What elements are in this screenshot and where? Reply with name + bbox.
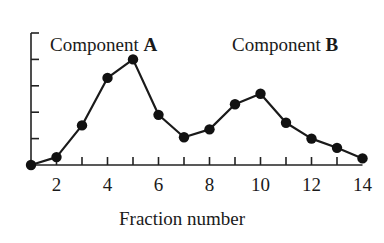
data-point-marker — [332, 143, 342, 153]
data-point-marker — [281, 118, 291, 128]
annotation-a-text: Component — [50, 34, 143, 55]
data-point-marker — [204, 124, 214, 134]
data-point-marker — [77, 120, 87, 130]
data-markers — [26, 54, 368, 170]
x-tick-label: 6 — [154, 174, 164, 195]
annotation-b-letter: B — [325, 34, 338, 55]
annotation-component-a: Component A — [50, 35, 157, 54]
annotation-b-text: Component — [232, 34, 325, 55]
x-tick-label: 8 — [205, 174, 215, 195]
data-point-marker — [102, 73, 112, 83]
data-point-marker — [306, 133, 316, 143]
x-tick-label: 10 — [251, 174, 270, 195]
data-point-marker — [128, 54, 138, 64]
series-line — [31, 59, 363, 165]
data-point-marker — [179, 132, 189, 142]
x-tick-label: 14 — [353, 174, 373, 195]
data-point-marker — [357, 153, 367, 163]
data-point-marker — [26, 160, 36, 170]
annotation-component-b: Component B — [232, 35, 338, 54]
data-point-marker — [51, 152, 61, 162]
x-tick-label: 2 — [52, 174, 62, 195]
x-tick-labels: 2468101214 — [52, 174, 373, 195]
data-point-marker — [255, 89, 265, 99]
x-axis-label: Fraction number — [119, 209, 245, 228]
annotation-a-letter: A — [143, 34, 157, 55]
data-point-marker — [153, 110, 163, 120]
data-line — [31, 59, 363, 165]
data-point-marker — [230, 99, 240, 109]
x-tick-label: 12 — [302, 174, 321, 195]
x-tick-label: 4 — [103, 174, 113, 195]
